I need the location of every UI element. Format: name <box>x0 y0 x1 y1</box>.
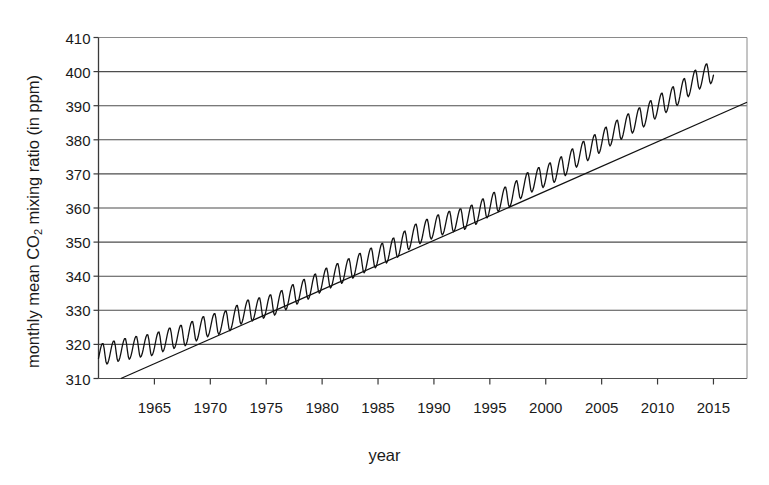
x-tick-label: 2005 <box>585 399 618 416</box>
y-tick-label: 380 <box>39 131 91 148</box>
y-tick-label: 400 <box>39 63 91 80</box>
x-tick-label: 1965 <box>138 399 171 416</box>
grid-lines <box>99 38 748 379</box>
y-tick-label: 350 <box>39 234 91 251</box>
axis-ticks <box>94 38 714 385</box>
y-tick-label: 360 <box>39 200 91 217</box>
x-tick-label: 2010 <box>641 399 674 416</box>
trend-line <box>121 102 747 378</box>
x-tick-label: 1990 <box>417 399 450 416</box>
y-tick-label: 330 <box>39 302 91 319</box>
co2-data-line <box>99 64 714 364</box>
y-tick-label: 340 <box>39 268 91 285</box>
x-tick-label: 2015 <box>697 399 730 416</box>
co2-subscript: 2 <box>32 229 44 235</box>
x-axis-label: year <box>0 446 769 465</box>
x-tick-label: 1985 <box>361 399 394 416</box>
x-tick-label: 1995 <box>473 399 506 416</box>
y-tick-label: 370 <box>39 165 91 182</box>
co2-chart-figure: 310320330340350360370380390400410 196519… <box>0 0 769 485</box>
x-tick-label: 2000 <box>529 399 562 416</box>
y-tick-label: 410 <box>39 29 91 46</box>
y-tick-label: 390 <box>39 97 91 114</box>
y-axis-label: monthly mean CO2 mixing ratio (in ppm) <box>24 52 43 392</box>
x-tick-label: 1970 <box>194 399 227 416</box>
y-tick-label: 310 <box>39 370 91 387</box>
x-tick-label: 1980 <box>305 399 338 416</box>
x-tick-label: 1975 <box>250 399 283 416</box>
y-tick-label: 320 <box>39 336 91 353</box>
